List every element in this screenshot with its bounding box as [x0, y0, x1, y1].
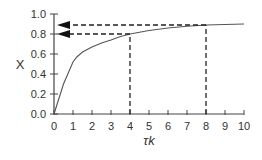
x-tick-label: 5: [146, 120, 152, 132]
y-tick-label: 0.6: [31, 48, 46, 60]
x-tick-label: 1: [70, 120, 76, 132]
y-tick-label: 0.0: [31, 108, 46, 120]
y-tick-label: 0.8: [31, 28, 46, 40]
x-tick-label: 8: [203, 120, 209, 132]
x-tick-label: 0: [51, 120, 57, 132]
dashed-guides: [57, 21, 206, 114]
y-tick-label: 1.0: [31, 8, 46, 20]
x-tick-label: 6: [165, 120, 171, 132]
x-tick-label: 2: [89, 120, 95, 132]
y-axis-label: X: [16, 57, 25, 72]
x-tick-label: 9: [222, 120, 228, 132]
x-ticks: 012345678910: [51, 110, 250, 132]
x-tick-label: 7: [184, 120, 190, 132]
y-tick-label: 0.2: [31, 88, 46, 100]
x-tick-label: 3: [108, 120, 114, 132]
data-curve: [54, 24, 244, 114]
x-tick-label: 10: [238, 120, 250, 132]
x-tick-label: 4: [127, 120, 133, 132]
arrow-left-icon: [57, 30, 70, 38]
x-axis-label: τk: [143, 133, 156, 148]
y-tick-label: 0.4: [31, 68, 46, 80]
arrow-left-icon: [57, 21, 70, 29]
chart: 0.00.20.40.60.81.0 012345678910 X τk: [0, 0, 262, 160]
